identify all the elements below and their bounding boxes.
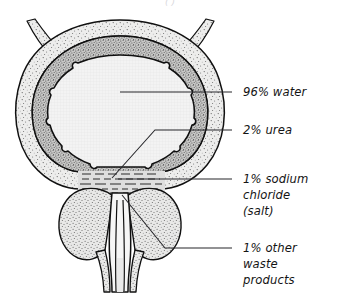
label-other-waste-line-1: 1% other [243, 241, 298, 255]
label-water-line-1: 96% water [243, 85, 308, 99]
label-sodium-chloride-line-2: chloride [243, 188, 290, 202]
prostate-lobe-right [127, 188, 181, 259]
label-urea-line-1: 2% urea [243, 123, 292, 137]
label-sodium-chloride-line-1: 1% sodium [243, 172, 308, 186]
cropped-caption: ( ) [165, 0, 175, 7]
urethra [109, 193, 131, 292]
prostate-lobe-left [59, 188, 113, 259]
bladder-urine-composition-figure: ( ) [0, 0, 341, 300]
label-other-waste-line-2: waste [243, 257, 278, 271]
label-sodium-chloride-line-3: (salt) [243, 204, 274, 218]
bladder-lumen [46, 55, 195, 168]
label-other-waste-line-3: products [242, 273, 295, 287]
label-2-percent-urea: 2% urea [243, 123, 292, 137]
diagram-canvas: ( ) [0, 0, 341, 300]
label-96-percent-water: 96% water [243, 85, 308, 99]
